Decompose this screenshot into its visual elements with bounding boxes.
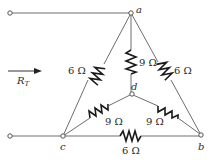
resistor-ab-label: 6 Ω (174, 65, 192, 76)
circuit-diagram: RT a b c d 6 Ω 9 Ω 6 Ω 9 Ω 9 Ω 6 Ω (0, 0, 215, 166)
node-b (199, 133, 203, 137)
node-d-label: d (131, 81, 137, 92)
resistor-cd-label: 9 Ω (105, 116, 123, 127)
node-b-label: b (198, 141, 204, 152)
terminal-bottom[interactable] (8, 134, 12, 138)
node-a (129, 11, 133, 15)
resistor-ad-label: 9 Ω (139, 57, 157, 68)
node-c-label: c (60, 141, 66, 152)
rt-arrow-icon (8, 68, 42, 74)
resistor-ca-label: 6 Ω (68, 65, 86, 76)
resistor-cb-label: 6 Ω (122, 145, 140, 156)
resistor-cb (65, 131, 199, 141)
terminal-top[interactable] (8, 11, 12, 15)
resistor-db-label: 9 Ω (146, 116, 164, 127)
node-d (130, 92, 134, 96)
node-a-label: a (136, 4, 142, 15)
rt-label: RT (16, 75, 31, 88)
node-c (61, 134, 65, 138)
